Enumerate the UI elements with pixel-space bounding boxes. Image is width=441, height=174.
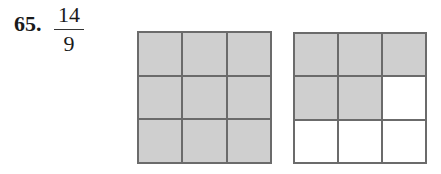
shaded-cell <box>382 33 426 76</box>
fraction-numerator: 14 <box>52 3 86 27</box>
fraction-denominator: 9 <box>52 32 86 56</box>
shaded-cell <box>182 76 226 120</box>
empty-cell <box>338 120 382 163</box>
empty-cell <box>382 76 426 119</box>
shaded-cell <box>138 76 182 120</box>
grid-2 <box>293 32 427 164</box>
shaded-cell <box>338 76 382 119</box>
shaded-cell <box>138 119 182 163</box>
shaded-cell <box>294 33 338 76</box>
shaded-cell <box>182 32 226 76</box>
shaded-cell <box>227 32 271 76</box>
shaded-cell <box>227 76 271 120</box>
problem-number: 65. <box>14 11 42 37</box>
grid-1 <box>137 31 272 164</box>
shaded-cell <box>294 76 338 119</box>
empty-cell <box>294 120 338 163</box>
fraction-bar <box>54 29 84 30</box>
fraction: 14 9 <box>52 3 86 56</box>
empty-cell <box>382 120 426 163</box>
shaded-cell <box>227 119 271 163</box>
shaded-cell <box>138 32 182 76</box>
shaded-cell <box>338 33 382 76</box>
shaded-cell <box>182 119 226 163</box>
